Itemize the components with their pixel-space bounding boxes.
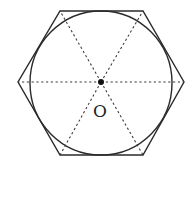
dotted-radius-1: [60, 11, 101, 82]
dotted-radius-4: [101, 82, 143, 155]
hexagon-inscribed-circle-diagram: O: [0, 0, 193, 205]
dotted-radius-2: [101, 11, 143, 82]
center-point-o: [98, 79, 104, 85]
center-label-o: O: [93, 101, 107, 121]
